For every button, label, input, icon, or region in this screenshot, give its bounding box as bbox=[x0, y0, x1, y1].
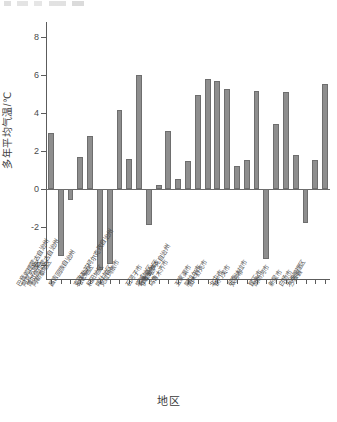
bar bbox=[165, 131, 171, 189]
bar bbox=[146, 189, 152, 225]
bar bbox=[322, 84, 328, 189]
scan-artifact bbox=[4, 1, 90, 6]
y-tick bbox=[41, 151, 46, 152]
bar bbox=[185, 161, 191, 189]
bar bbox=[68, 189, 74, 200]
bar bbox=[136, 75, 142, 189]
y-tick bbox=[41, 227, 46, 228]
bar bbox=[234, 166, 240, 189]
bar bbox=[156, 185, 162, 189]
bar bbox=[254, 91, 260, 189]
y-axis-title: 多年平均气温/℃ bbox=[0, 91, 14, 168]
bar bbox=[107, 189, 113, 264]
bar bbox=[293, 155, 299, 189]
bar bbox=[263, 189, 269, 259]
x-tick-label-group: 阿克苏地区阿勒泰地区巴音郭楞蒙古自治州博尔塔拉蒙古自治州昌吉回族自治州哈密地区和… bbox=[46, 284, 330, 380]
bar bbox=[77, 157, 83, 189]
bar bbox=[312, 160, 318, 188]
plot-area: -4-202468 bbox=[46, 22, 330, 280]
bar bbox=[244, 160, 250, 189]
bar bbox=[224, 89, 230, 189]
y-tick-label: -2 bbox=[31, 222, 39, 231]
bar bbox=[195, 95, 201, 189]
y-tick bbox=[41, 37, 46, 38]
y-tick-label: 2 bbox=[34, 147, 39, 156]
bar bbox=[48, 133, 54, 189]
bar bbox=[303, 189, 309, 223]
bar bbox=[175, 179, 181, 188]
bar bbox=[214, 81, 220, 189]
bar bbox=[87, 136, 93, 189]
y-tick bbox=[41, 75, 46, 76]
bar bbox=[126, 159, 132, 189]
bar bbox=[283, 92, 289, 189]
y-tick bbox=[41, 113, 46, 114]
bar-series bbox=[46, 22, 330, 280]
bar-chart-figure: 多年平均气温/℃ -4-202468 阿克苏地区阿勒泰地区巴音郭楞蒙古自治州博尔… bbox=[0, 0, 337, 422]
bar bbox=[117, 110, 123, 189]
x-axis-title: 地区 bbox=[0, 392, 337, 408]
y-tick-label: 0 bbox=[34, 184, 39, 193]
y-tick-label: 8 bbox=[34, 33, 39, 42]
bar bbox=[273, 124, 279, 189]
bar bbox=[58, 189, 64, 256]
y-tick-label: 4 bbox=[34, 109, 39, 118]
bar bbox=[205, 79, 211, 189]
y-tick bbox=[41, 189, 46, 190]
y-tick-label: 6 bbox=[34, 71, 39, 80]
